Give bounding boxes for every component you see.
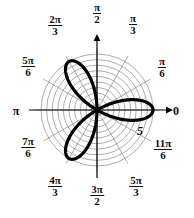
angle-5pi-3-fraction: 5π3	[129, 175, 143, 198]
angle-4pi-3-fraction: 4π3	[48, 175, 62, 198]
angle-4pi-3-denominator: 3	[48, 186, 62, 198]
angle-11pi-6: 11π6	[154, 138, 172, 162]
angle-7pi-6: 7π6	[21, 136, 35, 160]
angle-3pi-2-denominator: 2	[90, 195, 104, 207]
angle-3pi-2: 3π2	[90, 184, 104, 208]
angle-pi-6: π6	[158, 56, 166, 80]
angle-5pi-3-denominator: 3	[129, 186, 143, 198]
angle-11pi-6-denominator: 6	[154, 149, 172, 161]
angle-2pi-3-numerator: 2π	[48, 14, 62, 25]
angle-0-text: 0	[173, 104, 179, 118]
angle-pi-3-fraction: π3	[129, 13, 137, 36]
angle-11pi-6-fraction: 11π6	[154, 138, 172, 161]
angle-7pi-6-fraction: 7π6	[21, 136, 35, 159]
angle-pi-6-fraction: π6	[158, 56, 166, 79]
angle-2pi-3-fraction: 2π3	[48, 14, 62, 37]
angle-5pi-3: 5π3	[129, 175, 143, 199]
angle-11pi-6-numerator: 11π	[154, 138, 172, 149]
angle-4pi-3: 4π3	[48, 175, 62, 199]
angle-pi-2-fraction: π2	[93, 2, 101, 25]
angle-pi-6-denominator: 6	[158, 67, 166, 79]
axis-arrow-up	[94, 34, 101, 41]
angle-pi-2-denominator: 2	[93, 13, 101, 25]
angle-0: 0	[173, 102, 179, 118]
angle-2pi-3: 2π3	[48, 14, 62, 38]
axis-arrow-right	[166, 107, 173, 114]
angle-pi-text: π	[13, 104, 20, 118]
angle-pi-2: π2	[93, 2, 101, 26]
angle-4pi-3-numerator: 4π	[48, 175, 62, 186]
angle-2pi-3-denominator: 3	[48, 25, 62, 37]
radial-scale-5-label: 5	[137, 125, 143, 137]
angle-3pi-2-fraction: 3π2	[90, 184, 104, 207]
angle-5pi-3-numerator: 5π	[129, 175, 143, 186]
angle-pi-3-denominator: 3	[129, 24, 137, 36]
angle-pi-3-numerator: π	[129, 13, 137, 24]
angle-5pi-6-denominator: 6	[21, 66, 35, 78]
angle-7pi-6-denominator: 6	[21, 147, 35, 159]
angle-5pi-6: 5π6	[21, 55, 35, 79]
angle-3pi-2-numerator: 3π	[90, 184, 104, 195]
angle-pi: π	[13, 102, 20, 118]
angle-pi-2-numerator: π	[93, 2, 101, 13]
angle-5pi-6-numerator: 5π	[21, 55, 35, 66]
angle-7pi-6-numerator: 7π	[21, 136, 35, 147]
angle-pi-6-numerator: π	[158, 56, 166, 67]
angle-pi-3: π3	[129, 13, 137, 37]
angle-5pi-6-fraction: 5π6	[21, 55, 35, 78]
